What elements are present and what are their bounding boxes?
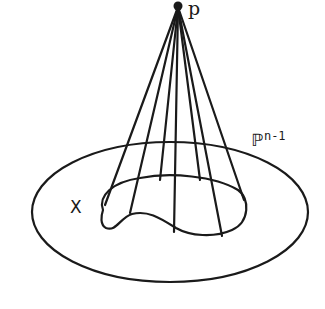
projective-space-label: ℙn-1 <box>251 130 286 149</box>
projective-space-symbol: ℙ <box>251 130 263 150</box>
cone-rulings <box>105 7 244 236</box>
apex-label: p <box>188 0 200 18</box>
cone-diagram <box>0 0 325 309</box>
variety-label: X <box>70 199 82 216</box>
projective-space-exponent: n-1 <box>264 129 286 143</box>
apex-point <box>174 2 183 11</box>
